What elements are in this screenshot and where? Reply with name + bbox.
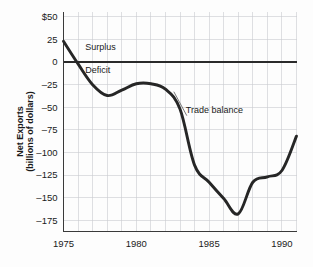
y-tick-label: $50 xyxy=(42,11,58,22)
y-tick-label: –75 xyxy=(42,124,58,135)
y-tick-label: –25 xyxy=(42,79,58,90)
y-tick-label: 25 xyxy=(47,34,58,45)
deficit-label: Deficit xyxy=(85,65,111,75)
x-tick-label: 1990 xyxy=(271,238,292,249)
surplus-label: Surplus xyxy=(85,42,116,52)
y-axis-title-line2: (billions of dollars) xyxy=(25,91,35,172)
y-tick-label: –100 xyxy=(36,147,57,158)
x-tick-label: 1980 xyxy=(126,238,147,249)
trade-balance-chart: $50250–25–50–75–100–125–150–175 19751980… xyxy=(0,0,313,267)
chart-canvas: $50250–25–50–75–100–125–150–175 19751980… xyxy=(0,0,313,267)
x-tick-label: 1985 xyxy=(199,238,220,249)
y-tick-label: –150 xyxy=(36,192,57,203)
y-tick-label: –50 xyxy=(42,102,58,113)
trade-balance-label: Trade balance xyxy=(186,105,243,115)
x-tick-label: 1975 xyxy=(53,238,74,249)
y-tick-label: –125 xyxy=(36,169,57,180)
y-tick-label: –175 xyxy=(36,215,57,226)
y-axis-title-line1: Net Exports xyxy=(15,106,25,157)
y-tick-label: 0 xyxy=(52,56,57,67)
